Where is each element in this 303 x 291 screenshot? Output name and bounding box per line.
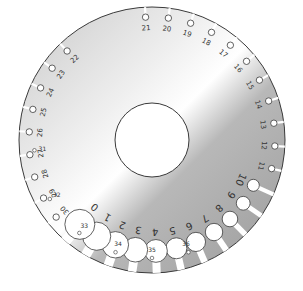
center-hole <box>115 103 189 177</box>
gauge-slot-hole <box>64 48 70 54</box>
gauge-slot-hole <box>30 106 36 112</box>
gauge-slot-hole <box>53 214 59 220</box>
small-hole-label: 36 <box>182 240 190 247</box>
gauge-slot-hole <box>271 120 277 126</box>
gauge-slot-hole <box>205 223 222 240</box>
gauge-slot-hole <box>268 165 274 171</box>
slot-label: 26 <box>36 127 45 137</box>
gauge-slot-hole <box>187 20 193 26</box>
small-gauge-hole <box>114 250 118 254</box>
gauge-slot-hole <box>236 196 250 210</box>
gauge-slot-hole <box>256 77 262 83</box>
slot-label: 21 <box>141 24 150 32</box>
small-hole-label: 32 <box>53 191 61 198</box>
gauge-slot-hole <box>37 85 43 91</box>
gauge-slot-hole <box>165 15 171 21</box>
small-hole-label: 31 <box>39 145 47 152</box>
gauge-slot-hole <box>142 14 148 20</box>
gauge-slot-hole <box>243 58 249 64</box>
small-gauge-hole <box>150 256 154 260</box>
gauge-slot-hole <box>27 152 33 158</box>
gauge-slot-hole <box>49 65 55 71</box>
slot-label: 12 <box>260 141 268 150</box>
slot-label: 4 <box>152 226 159 237</box>
gauge-slot-hole <box>265 98 271 104</box>
gauge-slot-hole <box>40 195 46 201</box>
gauge-slot-hole <box>272 143 278 149</box>
gauge-slot-hole <box>227 42 233 48</box>
slot-label: 13 <box>258 120 267 130</box>
slot-label: 20 <box>162 25 172 34</box>
small-gauge-hole <box>78 231 82 235</box>
gauge-slot-hole <box>32 174 38 180</box>
gauge-slot-hole <box>222 211 238 227</box>
wire-gauge: 2120191817161514131211109876543210302928… <box>0 0 303 291</box>
small-hole-label: 33 <box>80 222 88 229</box>
small-hole-label: 35 <box>148 246 156 253</box>
gauge-slot-hole <box>247 179 259 191</box>
small-hole-label: 34 <box>114 240 122 247</box>
gauge-slot-hole <box>26 129 32 135</box>
small-gauge-hole <box>187 250 191 254</box>
gauge-slot-hole <box>208 29 214 35</box>
